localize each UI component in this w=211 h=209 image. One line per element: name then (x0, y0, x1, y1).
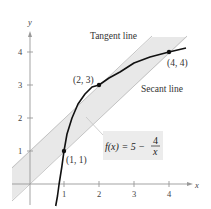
point-2-3 (97, 83, 101, 87)
y-tick-label: 3 (18, 80, 22, 90)
y-axis-label: y (27, 17, 32, 27)
y-tick-label: 1 (18, 146, 22, 156)
y-axis-arrow-icon (28, 31, 32, 37)
point-label-2-3: (2, 3) (73, 75, 94, 86)
x-tick-label: 1 (62, 189, 66, 199)
function-label-denominator: x (152, 146, 158, 157)
chart: 1 2 3 4 1 2 3 4 x y f(x) = 5 − 4 x (1, 1… (0, 0, 211, 209)
function-label: f(x) = 5 − (105, 141, 145, 153)
point-label-1-1: (1, 1) (66, 155, 87, 166)
x-axis-label: x (194, 180, 199, 190)
x-tick-label: 4 (167, 189, 172, 199)
tangent-line-label: Tangent line (90, 31, 137, 41)
point-1-1 (62, 149, 66, 153)
secant-line (12, 36, 187, 201)
x-tick-label: 2 (97, 189, 101, 199)
x-tick-label: 3 (132, 189, 136, 199)
x-axis-arrow-icon (187, 182, 193, 186)
function-label-numerator: 4 (153, 135, 158, 146)
y-tick-label: 4 (18, 47, 23, 57)
y-tick-label: 2 (18, 113, 22, 123)
point-4-4 (167, 50, 171, 54)
secant-line-label: Secant line (141, 84, 183, 94)
point-label-4-4: (4, 4) (167, 58, 188, 69)
